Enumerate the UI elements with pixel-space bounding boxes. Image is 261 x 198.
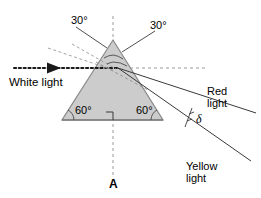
delta-angle-label: δ xyxy=(196,113,202,126)
apex-right-angle-label: 30° xyxy=(150,19,167,31)
base-left-angle-label: 60° xyxy=(75,104,92,116)
figure-label: A xyxy=(109,178,118,191)
white-light-label: White light xyxy=(9,76,63,89)
yellow-light-label-line1: Yellow xyxy=(186,160,217,172)
red-light-label-line1: Red xyxy=(207,85,227,97)
delta-angle-span-line xyxy=(185,108,192,127)
incident-ray-arrowhead xyxy=(47,63,61,74)
base-right-angle-label: 60° xyxy=(136,104,153,116)
apex-left-angle-label: 30° xyxy=(71,14,88,26)
apex-left-angle-leader-line xyxy=(76,27,107,48)
prism-dispersion-figure: 30° 30° 60° 60° White light Red light Ye… xyxy=(0,0,261,198)
yellow-light-label-line2: light xyxy=(186,172,206,184)
red-light-label-line2: light xyxy=(207,97,227,109)
apex-right-angle-leader-line xyxy=(122,31,155,52)
